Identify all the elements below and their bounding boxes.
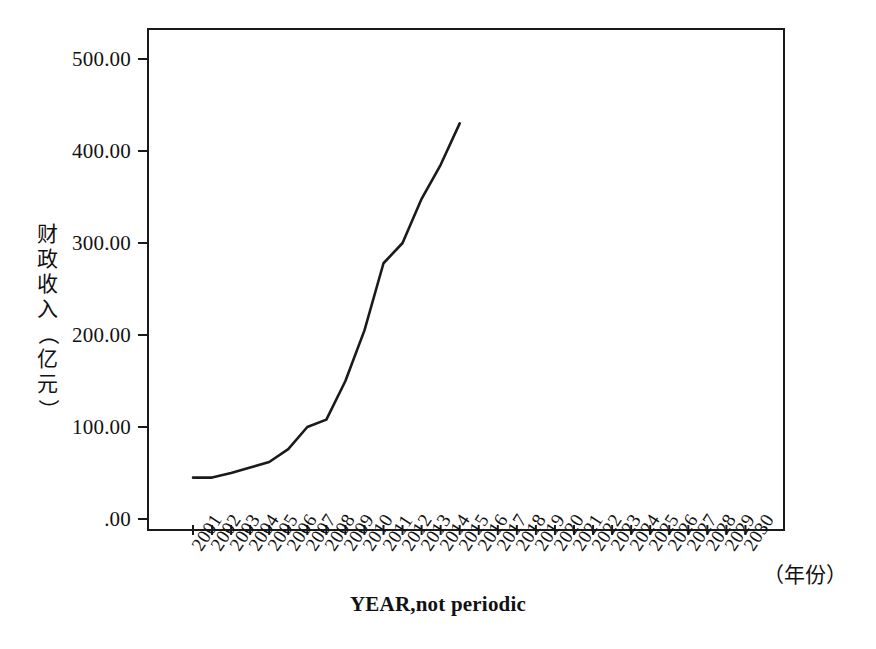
x-axis-unit-note: （年份） [763,558,847,588]
x-axis-title: YEAR,not periodic [0,592,876,617]
x-axis-tick-labels: 2001200220032004200520062007200820092010… [0,0,876,649]
chart-figure: 500.00400.00300.00200.00100.00.00 财政收入（亿… [0,0,876,649]
